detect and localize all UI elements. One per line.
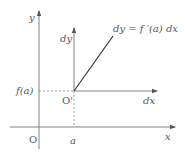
tangent-line [74, 36, 113, 91]
local-origin-label: O' [62, 95, 73, 106]
differential-diagram: y dy dy = f ′(a) dx f(a) O' dx O a x [0, 0, 185, 156]
f-of-a-label: f(a) [15, 85, 34, 96]
x-axis-label: x [165, 131, 171, 142]
tangent-equation: dy = f ′(a) dx [113, 23, 178, 34]
y-axis-label: y [28, 12, 35, 23]
a-label: a [70, 135, 76, 146]
origin-label: O [29, 134, 37, 145]
dx-axis-label: dx [143, 95, 155, 106]
dy-axis-label: dy [60, 33, 72, 44]
